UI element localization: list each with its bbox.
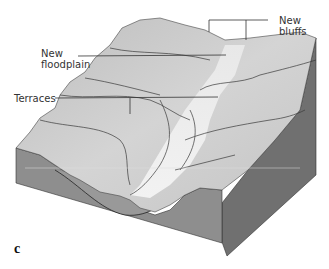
label-new-bluffs: New bluffs xyxy=(279,15,329,37)
panel-letter: c xyxy=(14,241,20,257)
label-new-floodplain-line1: New xyxy=(41,48,63,59)
label-terraces: Terraces xyxy=(14,93,56,104)
label-new-floodplain-line2: floodplain xyxy=(41,59,90,70)
block-diagram xyxy=(0,0,329,269)
